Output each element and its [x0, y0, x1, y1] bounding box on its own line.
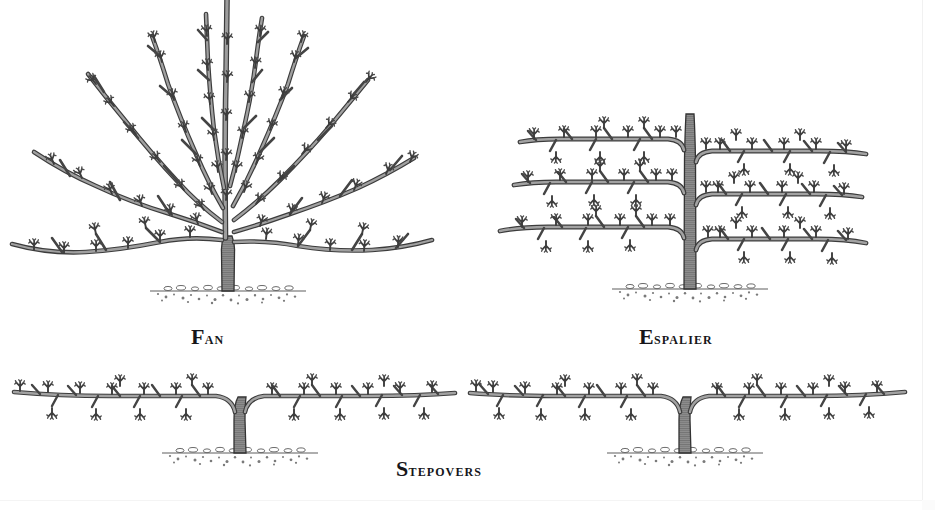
fan-twigs	[52, 30, 408, 252]
stepover-unit-right	[470, 374, 905, 467]
stepover-right-trunk	[679, 397, 691, 453]
fan-trunk	[221, 236, 234, 291]
fan-tree	[12, 0, 432, 305]
caption-espalier-lead: E	[639, 324, 654, 349]
caption-espalier-rest: spalier	[654, 328, 713, 348]
caption-stepovers-lead: S	[396, 456, 409, 481]
tree-forms-illustration	[0, 0, 935, 510]
caption-fan-rest: an	[205, 328, 225, 348]
stepover-trees	[14, 374, 905, 467]
page-edge-right	[922, 0, 923, 510]
stepover-left-trunk	[234, 397, 246, 453]
espalier-arms-left	[500, 139, 684, 238]
page-corner	[922, 500, 935, 510]
caption-fan: Fan	[191, 326, 224, 348]
caption-espalier: Espalier	[639, 326, 713, 348]
caption-fan-lead: F	[191, 324, 205, 349]
page-edge-bottom	[0, 500, 935, 501]
caption-stepovers-rest: tepovers	[409, 460, 482, 480]
stepover-unit-left	[14, 374, 455, 467]
fan-branches-right	[230, 18, 432, 251]
espalier-tree	[500, 114, 866, 303]
caption-stepovers: Stepovers	[396, 458, 482, 480]
espalier-trunk	[684, 114, 696, 289]
illustration-page: Fan Espalier Stepovers	[0, 0, 935, 510]
